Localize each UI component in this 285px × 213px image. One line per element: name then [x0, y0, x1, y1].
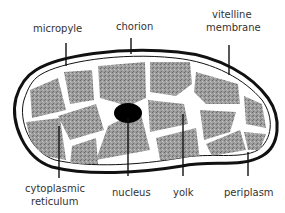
label-nucleus: nucleus — [112, 187, 151, 199]
label-yolk: yolk — [173, 187, 194, 199]
label-vitelline-1: vitelline — [212, 9, 252, 21]
label-cytoplasmic-1: cytoplasmic — [25, 183, 85, 195]
label-vitelline-2: membrane — [206, 22, 261, 34]
label-cytoplasmic-2: reticulum — [31, 196, 78, 208]
label-periplasm: periplasm — [224, 187, 274, 199]
label-chorion: chorion — [116, 21, 153, 33]
label-micropyle: micropyle — [33, 23, 82, 35]
